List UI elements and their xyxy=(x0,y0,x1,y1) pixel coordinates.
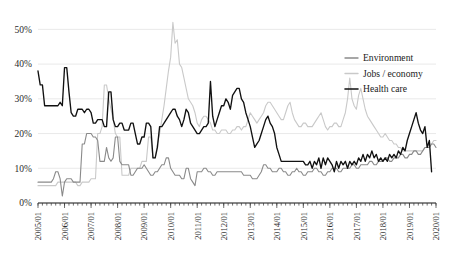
x-tick-label: 2013/01 xyxy=(246,212,256,240)
y-tick-label: 40% xyxy=(15,59,33,69)
x-tick-label: 2015/01 xyxy=(299,212,309,240)
y-tick-label: 10% xyxy=(15,164,33,174)
legend-label-1: Jobs / economy xyxy=(363,68,423,79)
chart-canvas: 0%10%20%30%40%50%2005/012006/012007/0120… xyxy=(0,0,460,263)
line-chart: 0%10%20%30%40%50%2005/012006/012007/0120… xyxy=(0,0,460,263)
x-tick-label: 2009/01 xyxy=(139,212,149,240)
x-tick-label: 2017/01 xyxy=(352,212,362,240)
x-tick-label: 2014/01 xyxy=(272,212,282,240)
x-tick-label: 2010/01 xyxy=(166,212,176,240)
y-tick-label: 0% xyxy=(19,198,32,208)
y-tick-label: 50% xyxy=(15,25,33,35)
x-tick-label: 2011/01 xyxy=(193,212,203,240)
legend-label-0: Environment xyxy=(363,52,413,63)
series-line-environment xyxy=(38,134,436,197)
legend-label-2: Health care xyxy=(363,83,407,94)
x-tick-label: 2012/01 xyxy=(219,212,229,240)
x-tick-label: 2020/01 xyxy=(431,212,441,240)
y-tick-label: 20% xyxy=(15,129,33,139)
x-tick-label: 2005/01 xyxy=(33,212,43,240)
x-tick-label: 2018/01 xyxy=(378,212,388,240)
x-tick-label: 2019/01 xyxy=(405,212,415,240)
y-tick-label: 30% xyxy=(15,94,33,104)
x-tick-label: 2016/01 xyxy=(325,212,335,240)
series-line-jobs-economy xyxy=(38,22,436,185)
x-tick-label: 2007/01 xyxy=(86,212,96,240)
x-tick-label: 2006/01 xyxy=(60,212,70,240)
x-tick-label: 2008/01 xyxy=(113,212,123,240)
